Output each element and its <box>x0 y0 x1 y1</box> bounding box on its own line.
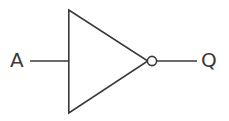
output-port-label: Q <box>201 50 217 70</box>
input-port-label: A <box>10 50 24 70</box>
not-gate-triangle <box>69 10 148 113</box>
diagram-canvas: A Q <box>0 0 229 121</box>
inversion-bubble-icon <box>147 56 156 65</box>
not-gate-diagram <box>0 0 229 121</box>
